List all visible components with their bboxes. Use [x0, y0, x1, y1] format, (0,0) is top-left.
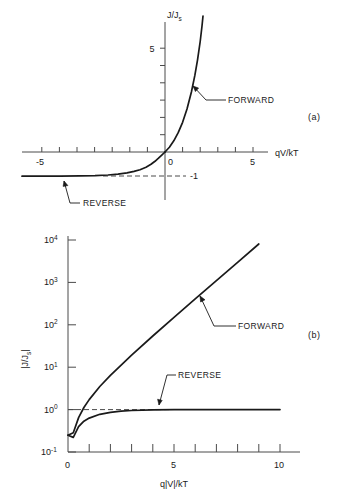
- panel-b-ytick-label-1: 101: [44, 361, 58, 373]
- panel-b-xtick-label-10: 10: [274, 460, 284, 470]
- panel-a-reverse-label: REVERSE: [83, 198, 126, 208]
- panel-b-xtick-label-5: 5: [171, 460, 176, 470]
- panel-b-ytick-label-4: 104: [44, 234, 58, 246]
- panel-b-chart: 104 103 102 101 100 10-1 0 5 10 |J/Js| q…: [0, 224, 350, 499]
- panel-a-forward-annotation: FORWARD: [193, 86, 274, 105]
- panel-b-label: (b): [308, 330, 321, 340]
- panel-a-y-axis-label: J/Js: [167, 10, 183, 22]
- panel-a-reverse-annotation: REVERSE: [63, 181, 126, 208]
- panel-b-reverse-annotation: REVERSE: [158, 370, 222, 405]
- panel-a-xtick-label-zero: 0: [168, 157, 173, 167]
- panel-a-chart: J/Js qV/kT -5 0 5 5 -1 FORWARD REVERSE: [0, 0, 350, 225]
- panel-b-ytick-label-3: 103: [44, 276, 58, 288]
- panel-a-x-ticks: [42, 147, 253, 152]
- panel-b-y-axis-label: |J/Js|: [20, 349, 32, 368]
- panel-b-reverse-label: REVERSE: [178, 370, 221, 380]
- panel-b-x-ticks: [89, 444, 280, 452]
- panel-a-x-axis-label: qV/kT: [275, 148, 299, 158]
- panel-b-y-ticks: [68, 240, 76, 452]
- panel-a-y-ticks: [160, 48, 165, 135]
- panel-a-ytick-label-5: 5: [149, 44, 154, 54]
- panel-a-forward-curve: [165, 16, 203, 152]
- panel-b-y-tick-labels: 104 103 102 101 100 10-1: [41, 234, 58, 458]
- panel-a-xtick-label-5: 5: [250, 157, 255, 167]
- panel-a-forward-label: FORWARD: [228, 95, 274, 105]
- panel-b-forward-curve: [68, 244, 259, 435]
- panel-b-ytick-label-2: 102: [44, 318, 58, 330]
- panel-b-x-axis-label: q|V|/kT: [160, 479, 189, 489]
- panel-b-forward-annotation: FORWARD: [200, 296, 284, 331]
- figure-container: J/Js qV/kT -5 0 5 5 -1 FORWARD REVERSE (…: [0, 0, 350, 499]
- panel-a-reference-label: -1: [190, 171, 198, 181]
- panel-b-reverse-curve: [68, 410, 280, 438]
- panel-b-forward-label: FORWARD: [238, 321, 284, 331]
- panel-b-xtick-label-0: 0: [65, 460, 70, 470]
- panel-b-ytick-label-neg1: 10-1: [41, 446, 57, 458]
- panel-a-label: (a): [308, 112, 321, 122]
- panel-a-xtick-label-neg5: -5: [36, 157, 44, 167]
- panel-b-ytick-label-0: 100: [44, 403, 58, 415]
